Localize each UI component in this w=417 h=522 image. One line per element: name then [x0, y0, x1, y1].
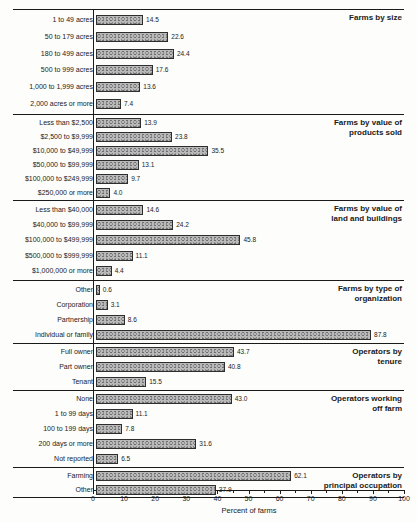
category-label: Full owner	[13, 348, 96, 356]
category-label: Individual or family	[13, 331, 96, 339]
bar-value-label: 24.4	[177, 49, 190, 59]
chart-section: Farms by value ofproducts soldLess than …	[13, 115, 404, 201]
bar	[96, 315, 125, 325]
bar-row: 100 to 199 days7.8	[13, 422, 404, 435]
bar-row: 50 to 179 acres22.6	[13, 30, 404, 43]
x-axis-tick-label: 100	[398, 495, 410, 503]
bar-track: 87.8	[96, 330, 404, 340]
bar-track: 40.8	[96, 362, 404, 372]
bar-value-label: 40.8	[228, 362, 241, 372]
bar-track: 4.4	[96, 266, 404, 276]
bar-track: 24.2	[96, 220, 404, 230]
bar-track: 23.8	[96, 132, 404, 142]
bar-value-label: 11.1	[136, 251, 148, 261]
bar	[96, 174, 128, 184]
chart-section: Farms by size1 to 49 acres14.550 to 179 …	[13, 9, 404, 115]
category-label: 1 to 49 acres	[13, 16, 96, 24]
bar-value-label: 43.0	[235, 394, 248, 404]
bar-row: $40,000 to $99,99924.2	[13, 219, 404, 232]
bar-row: 1,000 to 1,999 acres13.6	[13, 81, 404, 94]
category-label: None	[13, 395, 96, 403]
bar-value-label: 17.6	[156, 65, 169, 75]
bar-row: Partnership8.6	[13, 313, 404, 326]
x-axis-tick	[404, 490, 405, 494]
category-label: $1,000,000 or more	[13, 267, 96, 275]
bar	[96, 394, 232, 404]
bar	[96, 82, 140, 92]
bar-track: 15.5	[96, 377, 404, 387]
category-label: Other	[13, 486, 96, 494]
x-axis-tick-label: 30	[182, 495, 190, 503]
bar	[96, 160, 139, 170]
bar-track: 62.1	[96, 471, 404, 481]
category-label: Farming	[13, 472, 96, 480]
bar-row: $2,500 to $9,99923.8	[13, 130, 404, 143]
bar-track: 14.5	[96, 15, 404, 25]
category-label: Less than $40,000	[13, 206, 96, 214]
bar	[96, 65, 153, 75]
bar-value-label: 13.1	[142, 160, 155, 170]
bar-value-label: 43.7	[237, 347, 250, 357]
bar-row: Not reported6.5	[13, 452, 404, 465]
bar	[96, 49, 174, 59]
bar	[96, 377, 146, 387]
bar-row: 2,000 acres or more7.4	[13, 97, 404, 110]
bar	[96, 188, 110, 198]
bar-row: $50,000 to $99,99913.1	[13, 158, 404, 171]
category-label: 200 days or more	[13, 440, 96, 448]
bar-track: 6.5	[96, 454, 404, 464]
bar-row: $10,000 to $49,99935.5	[13, 144, 404, 157]
bar-value-label: 6.5	[121, 454, 130, 464]
bar-row: $500,000 to $999,99911.1	[13, 249, 404, 262]
bar-track: 11.1	[96, 251, 404, 261]
category-label: Tenant	[13, 378, 96, 386]
bar	[96, 285, 100, 295]
category-label: Corporation	[13, 301, 96, 309]
bar-value-label: 3.1	[111, 300, 120, 310]
x-axis-tick-label: 10	[120, 495, 128, 503]
bar-value-label: 11.1	[136, 409, 148, 419]
bar-row: Individual or family87.8	[13, 328, 404, 341]
bar-track: 9.7	[96, 174, 404, 184]
bar-row: Part owner40.8	[13, 361, 404, 374]
bar-track: 4.0	[96, 188, 404, 198]
bar	[96, 132, 172, 142]
bar-track: 24.4	[96, 49, 404, 59]
bar	[96, 15, 143, 25]
x-axis-tick-label: 0	[91, 495, 95, 503]
x-axis-title: Percent of farms	[93, 506, 405, 515]
chart-section: Farms by type oforganizationOther0.6Corp…	[13, 281, 404, 344]
bar-track: 37.9	[96, 485, 404, 495]
category-label: 50 to 179 acres	[13, 33, 96, 41]
farm-statistics-bar-chart: Farms by size1 to 49 acres14.550 to 179 …	[0, 0, 417, 522]
category-label: $100,000 to $499,999	[13, 236, 96, 244]
x-axis-tick-label: 40	[213, 495, 221, 503]
bar-track: 11.1	[96, 409, 404, 419]
chart-section: Operators bytenureFull owner43.7Part own…	[13, 344, 404, 391]
bar-value-label: 37.9	[219, 485, 232, 495]
bar	[96, 454, 118, 464]
category-label: Less than $2,500	[13, 119, 96, 127]
bar-value-label: 7.4	[124, 99, 133, 109]
bar-row: Less than $2,50013.9	[13, 116, 404, 129]
category-label: $40,000 to $99,999	[13, 221, 96, 229]
bar-row: None43.0	[13, 393, 404, 406]
bar-row: Less than $40,00014.6	[13, 203, 404, 216]
chart-section: Operators byprincipal occupationFarming6…	[13, 468, 404, 498]
bar-row: Tenant15.5	[13, 375, 404, 388]
category-label: $250,000 or more	[13, 189, 96, 197]
category-label: 2,000 acres or more	[13, 100, 96, 108]
bar-value-label: 13.9	[144, 118, 157, 128]
bar	[96, 205, 143, 215]
bar-track: 22.6	[96, 32, 404, 42]
category-label: Partnership	[13, 316, 96, 324]
category-label: $500,000 to $999,999	[13, 252, 96, 260]
bar-track: 8.6	[96, 315, 404, 325]
bar-value-label: 15.5	[149, 377, 162, 387]
bar-track: 14.6	[96, 205, 404, 215]
bar-value-label: 4.4	[115, 266, 124, 276]
x-axis-tick-label: 80	[338, 495, 346, 503]
bar	[96, 118, 141, 128]
bar-row: Other37.9	[13, 483, 404, 496]
bar-row: $1,000,000 or more4.4	[13, 265, 404, 278]
